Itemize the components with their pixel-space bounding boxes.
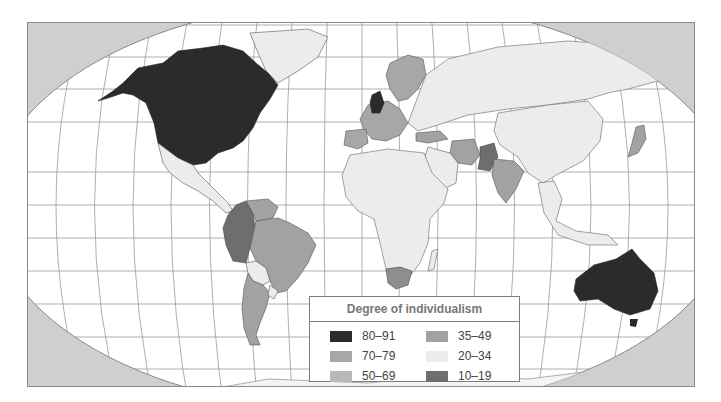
legend-label: 80–91 xyxy=(362,329,395,343)
legend-item: 35–49 xyxy=(426,329,491,343)
legend-label: 50–69 xyxy=(362,369,395,383)
legend-label: 20–34 xyxy=(458,349,491,363)
legend-label: 35–49 xyxy=(458,329,491,343)
legend-title: Degree of individualism xyxy=(310,297,519,322)
legend: Degree of individualism 80–91 70–79 50–6… xyxy=(309,296,520,382)
legend-swatch xyxy=(426,351,448,362)
legend-swatch xyxy=(426,331,448,342)
legend-item: 70–79 xyxy=(330,349,395,363)
legend-swatch xyxy=(426,371,448,382)
legend-swatch xyxy=(330,351,352,362)
legend-swatch xyxy=(330,331,352,342)
legend-item: 50–69 xyxy=(330,369,395,383)
legend-item: 20–34 xyxy=(426,349,491,363)
legend-item: 80–91 xyxy=(330,329,395,343)
legend-swatch xyxy=(330,371,352,382)
legend-label: 10–19 xyxy=(458,369,491,383)
legend-label: 70–79 xyxy=(362,349,395,363)
legend-item: 10–19 xyxy=(426,369,491,383)
